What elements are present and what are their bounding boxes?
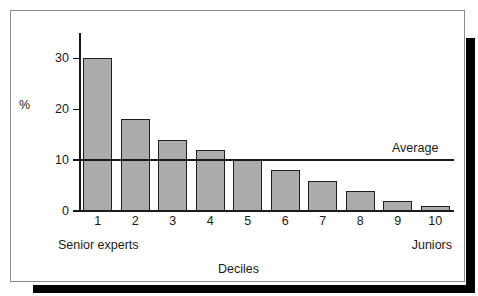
bar-3 (158, 140, 187, 211)
juniors-label: Juniors (412, 239, 452, 252)
chart-panel: 0102030 % Average 12345678910 Senior exp… (10, 10, 465, 282)
bar-9 (383, 201, 412, 211)
y-axis-tick-label: 30 (25, 52, 69, 65)
bar-10 (421, 206, 450, 211)
y-axis-tick-label: 0 (25, 205, 69, 218)
x-tick-label-1: 1 (79, 215, 117, 228)
figure-shadow-bottom (33, 285, 475, 293)
x-axis-title: Deciles (11, 263, 466, 276)
x-tick-label-4: 4 (192, 215, 230, 228)
x-tick-label-9: 9 (379, 215, 417, 228)
senior-experts-label: Senior experts (58, 239, 139, 252)
x-tick-label-3: 3 (154, 215, 192, 228)
y-axis-tick-label: 10 (25, 154, 69, 167)
x-tick-label-10: 10 (417, 215, 455, 228)
bar-series (79, 33, 454, 211)
plot-area: 0102030 % Average 12345678910 Senior exp… (11, 11, 466, 283)
bar-7 (308, 181, 337, 212)
x-tick-label-8: 8 (342, 215, 380, 228)
bar-5 (233, 160, 262, 211)
x-tick-label-6: 6 (267, 215, 305, 228)
y-axis-tick-label: 20 (25, 103, 69, 116)
y-axis-title: % (19, 99, 30, 112)
x-tick-label-5: 5 (229, 215, 267, 228)
average-label: Average (392, 142, 438, 155)
bar-2 (121, 119, 150, 211)
bar-1 (83, 58, 112, 211)
chart-figure: 0102030 % Average 12345678910 Senior exp… (0, 0, 478, 296)
x-tick-label-7: 7 (304, 215, 342, 228)
bar-6 (271, 170, 300, 211)
bar-8 (346, 191, 375, 211)
x-tick-label-2: 2 (117, 215, 155, 228)
average-line (79, 159, 454, 161)
figure-shadow-right (466, 38, 475, 288)
